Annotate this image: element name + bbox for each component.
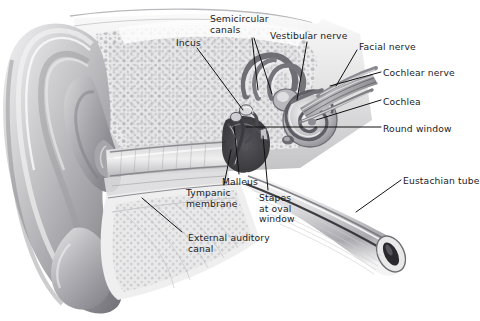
label-vestibular-nerve: Vestibular nerve <box>270 31 347 42</box>
label-cochlear-nerve: Cochlear nerve <box>383 68 455 79</box>
label-incus: Incus <box>176 38 201 49</box>
round-window-structure <box>282 136 294 145</box>
label-external-auditory-canal: External auditory canal <box>188 233 270 254</box>
label-facial-nerve: Facial nerve <box>359 42 416 53</box>
label-tympanic-membrane: Tympanic membrane <box>186 188 237 209</box>
label-eustachian-tube: Eustachian tube <box>403 176 480 187</box>
label-stapes-at-oval-window: Stapes at oval window <box>259 193 295 225</box>
label-semicircular-canals: Semicircular canals <box>210 14 269 35</box>
label-cochlea: Cochlea <box>383 97 421 108</box>
label-malleus: Malleus <box>222 177 258 188</box>
label-round-window: Round window <box>383 124 452 135</box>
